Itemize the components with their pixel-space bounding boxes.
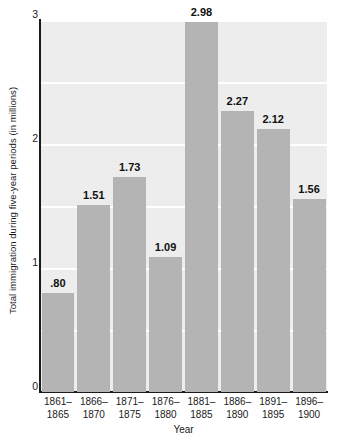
y-axis-title-text: Total immigration during five-year perio… [8,86,19,313]
x-axis-tick-label-line1: 1881– [184,396,220,409]
x-axis-tick-label-line2: 1885 [184,409,220,422]
x-axis-tick-label-line2: 1895 [255,409,291,422]
bar-value-label: 1.09 [148,242,184,253]
bar-group: 1.51 [76,20,112,392]
x-axis-tick-label-line1: 1861– [40,396,76,409]
bars-layer: .801.511.731.092.982.272.121.56 [40,20,327,392]
bar-value-label: 2.27 [219,96,255,107]
x-axis-title: Year [40,424,327,435]
bar[interactable] [77,205,110,392]
x-axis-tick-label: 1866–1870 [76,396,112,421]
bar-chart: Total immigration during five-year perio… [0,0,338,444]
y-axis-tick-label: 3 [32,9,38,20]
bar[interactable] [257,129,290,392]
bar[interactable] [221,111,254,392]
x-axis-tick-label-line2: 1880 [148,409,184,422]
x-axis-tick-label-line1: 1896– [291,396,327,409]
y-axis-tick-labels: 0123 [22,14,38,392]
bar-group: 1.09 [148,20,184,392]
bar-group: 1.73 [112,20,148,392]
x-axis-tick-label: 1886–1890 [219,396,255,421]
bar-value-label: 1.51 [76,190,112,201]
x-axis-tick-label: 1876–1880 [148,396,184,421]
bar-group: 2.27 [219,20,255,392]
bar-value-label: .80 [40,278,76,289]
y-axis-tick-label: 0 [32,381,38,392]
bar-value-label: 2.12 [255,114,291,125]
x-axis-tick-label: 1896–1900 [291,396,327,421]
bar[interactable] [293,199,326,392]
x-axis-tick-label-line2: 1865 [40,409,76,422]
y-axis-tick-label: 1 [32,257,38,268]
x-axis-tick-label: 1871–1875 [112,396,148,421]
x-axis-tick-label-line1: 1876– [148,396,184,409]
bar-value-label: 1.56 [291,184,327,195]
x-axis-tick-label-line2: 1900 [291,409,327,422]
x-axis-tick-label: 1881–1885 [184,396,220,421]
bar-value-label: 1.73 [112,162,148,173]
x-axis-tick-label-line1: 1891– [255,396,291,409]
y-axis-tick-label: 2 [32,133,38,144]
bar[interactable] [113,177,146,392]
x-axis-tick-label: 1891–1895 [255,396,291,421]
x-axis-tick-label-line2: 1875 [112,409,148,422]
bar-value-label: 2.98 [184,7,220,18]
x-axis-tick-label-line1: 1886– [219,396,255,409]
bar-group: 1.56 [291,20,327,392]
x-axis-tick-label-line1: 1871– [112,396,148,409]
x-axis-tick-label-line2: 1870 [76,409,112,422]
bar[interactable] [149,257,182,392]
bar[interactable] [42,293,75,392]
x-axis-tick-label: 1861–1865 [40,396,76,421]
bar[interactable] [185,22,218,392]
bar-group: .80 [40,20,76,392]
x-axis-tick-label-line1: 1866– [76,396,112,409]
x-axis-tick-label-line2: 1890 [219,409,255,422]
bar-group: 2.98 [184,20,220,392]
bar-group: 2.12 [255,20,291,392]
